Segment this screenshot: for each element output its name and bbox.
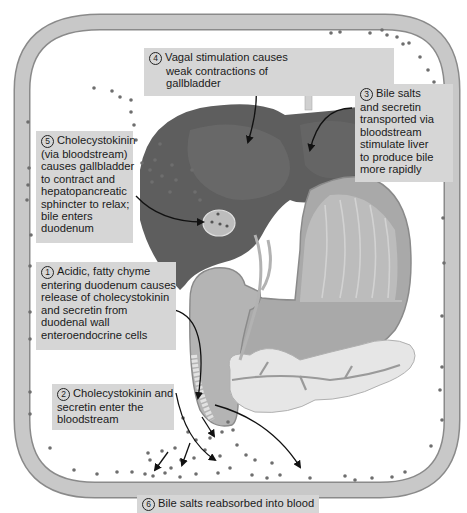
step-5-label: 5Cholecystokinin (via bloodstream) cause… — [36, 131, 133, 243]
gallbladder — [203, 210, 235, 236]
step-1-label: 1Acidic, fatty chyme entering duodenum c… — [36, 262, 176, 350]
step-6-number: 6 — [142, 498, 155, 511]
arrow-step-2a — [155, 452, 168, 470]
step-3-label: 3Bile salts and secretin transported via… — [355, 84, 453, 182]
step-4-number: 4 — [149, 52, 162, 65]
arrow-step-2b — [182, 443, 190, 465]
step-1-number: 1 — [41, 266, 54, 279]
bile-regulation-diagram: 4Vagal stimulation causes weak contracti… — [0, 0, 467, 513]
step-2-number: 2 — [57, 388, 70, 401]
step-5-number: 5 — [41, 135, 54, 148]
step-3-number: 3 — [360, 88, 373, 101]
step-2-label: 2Cholecystokinin and secretin enter the … — [52, 384, 174, 430]
step-6-label: 6Bile salts reabsorbed into blood — [137, 495, 319, 513]
